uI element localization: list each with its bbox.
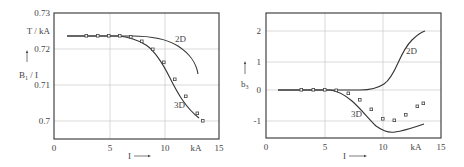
- left-y-unit: T / kA: [27, 26, 51, 36]
- right-plot-frame: [266, 13, 441, 138]
- right-xtick: 0: [264, 142, 269, 152]
- right-x-arrowhead-icon: [364, 155, 367, 157]
- left-chart: 0.73 0.72 0.71 0.7 T / kA B1 / I 0 5 10 …: [19, 8, 224, 161]
- right-label-2d: 2D: [406, 46, 418, 56]
- left-xtick: 0: [52, 143, 57, 153]
- left-plot-frame: [54, 13, 219, 139]
- right-xtick: 5: [323, 142, 328, 152]
- right-xtick: 10: [379, 142, 389, 152]
- left-xtick: 15: [215, 143, 225, 153]
- right-y-label: b3: [241, 79, 249, 90]
- right-chart: 2 1 0 -1 b3 0 5 10 kA 15 I: [241, 13, 446, 161]
- left-ytick: 0.72: [34, 44, 50, 54]
- left-measured-markers: [85, 35, 204, 123]
- left-ytick: 0.73: [34, 8, 50, 18]
- right-x-unit: kA: [411, 142, 423, 152]
- left-y-label: B1 / I: [19, 70, 38, 81]
- left-ytick: 0.71: [34, 80, 50, 90]
- right-measured-markers: [300, 89, 425, 122]
- figure: 0.73 0.72 0.71 0.7 T / kA B1 / I 0 5 10 …: [0, 0, 464, 167]
- right-xtick: 15: [437, 142, 447, 152]
- left-xtick: 10: [161, 143, 171, 153]
- right-curve-2d: [278, 31, 425, 90]
- right-ytick: 0: [257, 85, 262, 95]
- left-x-label: I: [128, 151, 131, 161]
- left-y-arrowhead-icon: [26, 50, 28, 53]
- left-grid: [54, 13, 219, 139]
- left-x-unit: kA: [191, 143, 203, 153]
- left-xtick: 5: [108, 143, 113, 153]
- right-ytick: 2: [257, 26, 262, 36]
- right-ytick: 1: [257, 57, 262, 67]
- left-ytick: 0.7: [39, 116, 51, 126]
- left-label-3d: 3D: [174, 100, 186, 110]
- left-label-2d: 2D: [175, 34, 187, 44]
- right-grid: [266, 13, 441, 138]
- right-y-arrowhead-icon: [244, 61, 246, 64]
- right-ytick: -1: [254, 116, 262, 126]
- left-x-arrowhead-icon: [148, 155, 151, 157]
- right-x-label: I: [343, 151, 346, 161]
- right-label-3d: 3D: [351, 109, 363, 119]
